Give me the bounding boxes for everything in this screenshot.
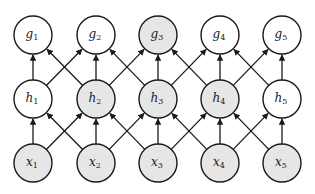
- node-x3: x3: [139, 144, 177, 182]
- node-h2: h2: [77, 80, 115, 118]
- node-h1: h1: [14, 80, 52, 118]
- node-x5: x5: [263, 144, 301, 182]
- node-x1: x1: [14, 144, 52, 182]
- node-x2: x2: [77, 144, 115, 182]
- node-g4: g4: [201, 16, 239, 54]
- node-x4: x4: [201, 144, 239, 182]
- node-g2: g2: [77, 16, 115, 54]
- node-g1: g1: [14, 16, 52, 54]
- node-g5: g5: [263, 16, 301, 54]
- node-g3: g3: [139, 16, 177, 54]
- node-h5: h5: [263, 80, 301, 118]
- node-h3: h3: [139, 80, 177, 118]
- convolutional-graph-diagram: g1g2g3g4g5h1h2h3h4h5x1x2x3x4x5: [0, 0, 315, 194]
- node-h4: h4: [201, 80, 239, 118]
- nodes-layer: g1g2g3g4g5h1h2h3h4h5x1x2x3x4x5: [14, 16, 301, 182]
